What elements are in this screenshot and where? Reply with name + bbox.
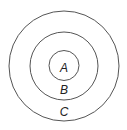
concentric-circles-diagram: A B C bbox=[0, 0, 127, 130]
label-b: B bbox=[60, 83, 68, 97]
label-a: A bbox=[59, 61, 68, 75]
label-c: C bbox=[60, 105, 69, 119]
